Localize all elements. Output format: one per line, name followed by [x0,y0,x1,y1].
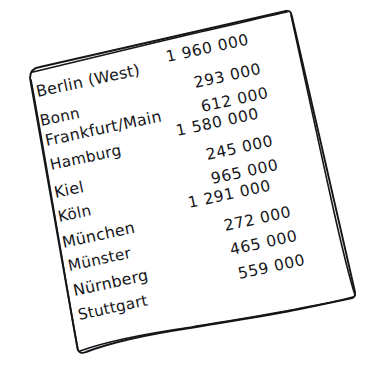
list-item: Stuttgart 559 000 [0,0,377,30]
city-name: Köln [57,203,93,225]
population-value: 1 960 000 [165,33,251,66]
city-name: Stuttgart [77,293,150,323]
city-name: Hamburg [49,143,123,173]
city-population-list: Berlin (West) 1 960 000 Bonn 293 000 Fra… [0,0,377,369]
city-name: Kiel [53,179,86,201]
handwritten-note-scene: Berlin (West) 1 960 000 Bonn 293 000 Fra… [0,0,377,369]
population-value: 559 000 [237,253,307,283]
city-name: Berlin (West) [35,62,142,100]
